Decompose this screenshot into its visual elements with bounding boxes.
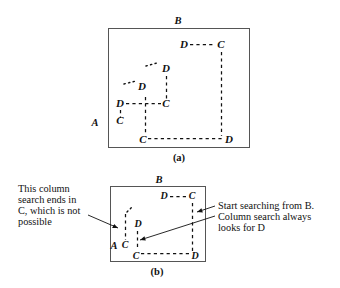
annotation-left-line-4: possible <box>18 216 52 227</box>
panel-a-label-B: B <box>173 15 181 26</box>
node-b-d-mid: D <box>133 218 141 229</box>
panel-b-label-B: B <box>154 174 162 185</box>
node-a-c-lower-left: C <box>116 114 124 126</box>
panel-b-label-A: A <box>109 240 117 251</box>
annotation-left-line-1: This column <box>18 183 70 194</box>
annotation-right-line-2: Column search always <box>218 211 311 222</box>
node-a-d-upper-mid: D <box>161 62 170 74</box>
node-b-c-left: C <box>122 239 129 250</box>
node-b-c-bottom: C <box>133 250 140 261</box>
annotation-left-line-3: C, which is not <box>18 205 80 216</box>
annotation-right-line-1: Start searching from B. <box>218 200 314 211</box>
node-a-c-top-right: C <box>217 38 225 50</box>
panel-b-caption: (b) <box>151 266 164 278</box>
annotation-left-line-2: search ends in <box>18 194 76 205</box>
panel-a-label-A: A <box>90 117 98 128</box>
panel-a-boundary-box <box>109 29 250 148</box>
annotation-right-line-3: looks for D <box>218 222 265 233</box>
annotation-left: This column search ends in C, which is n… <box>18 183 118 228</box>
node-b-d-top: D <box>159 190 167 201</box>
figure-canvas: B A D C D D D C C <box>0 0 340 288</box>
node-a-d-left-mid: D <box>137 80 146 92</box>
node-a-c-bottom: C <box>139 133 147 145</box>
panel-a: B A D C D D D C C <box>90 15 249 164</box>
node-a-d-cross-left: D <box>115 97 124 109</box>
node-a-d-top-right: D <box>179 38 188 50</box>
node-a-c-cross-right: C <box>162 97 170 109</box>
panel-b: B A D C D C C D (b) <box>109 174 205 278</box>
panel-a-caption: (a) <box>173 152 186 164</box>
node-a-d-bottom-right: D <box>224 133 233 145</box>
node-b-c-top-right: C <box>189 190 196 201</box>
node-b-d-bottom-right: D <box>190 250 198 261</box>
figure-root: B A D C D D D C C <box>0 0 340 288</box>
